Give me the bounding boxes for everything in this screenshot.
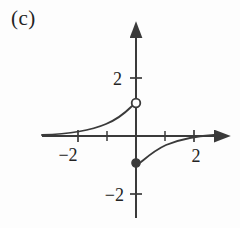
curve-left-branch [42,103,136,135]
curve-right-branch [136,135,214,165]
x-tick-label-pos2: 2 [192,146,201,166]
closed-point-marker [132,159,140,167]
graph-plot: −2 2 2 −2 [0,0,240,228]
open-point-marker [132,99,141,108]
y-tick-label-pos2: 2 [113,69,122,89]
figure-container: (c) −2 2 2 −2 [0,0,240,228]
y-tick-label-neg2: −2 [105,185,124,205]
x-tick-label-neg2: −2 [58,145,77,165]
